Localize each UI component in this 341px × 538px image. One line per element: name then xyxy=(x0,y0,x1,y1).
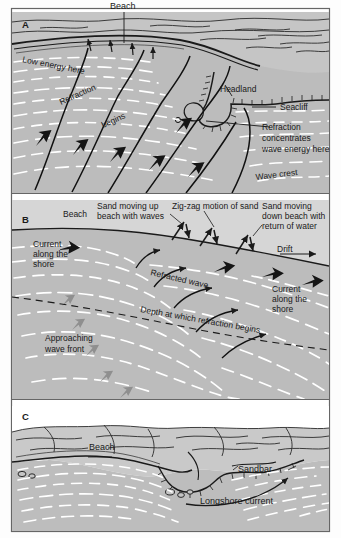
panel-b-label-current-right-1: Current xyxy=(272,284,301,294)
panel-b-label-current-left-2: along the xyxy=(33,249,68,259)
panel-b-label-zigzag: Zig-zag motion of sand xyxy=(172,201,259,211)
coastal-processes-diagram: A Beach Low energy here Refraction begin… xyxy=(0,0,341,538)
panel-b-label-beach: Beach xyxy=(63,209,87,219)
panel-b-label-drift: Drift xyxy=(277,244,293,254)
panel-b-label-sand-down-1: Sand moving xyxy=(262,201,312,211)
panel-b-label-current-left-3: shore xyxy=(33,259,55,269)
panel-a-label-headland: Headland xyxy=(220,84,257,94)
panel-b-label-current-right-3: shore xyxy=(272,304,294,314)
panel-c-label-longshore-current: Longshore current xyxy=(200,496,274,506)
panel-a: A Beach Low energy here Refraction begin… xyxy=(12,1,330,194)
figure-root: A Beach Low energy here Refraction begin… xyxy=(0,0,341,538)
panel-a-id: A xyxy=(22,19,29,30)
panel-a-label-refraction-concentrates-2: concentrates xyxy=(262,133,311,143)
panel-b-label-current-left-1: Current xyxy=(33,239,62,249)
panel-c: C Beach Sandbar Longshore current xyxy=(12,406,329,531)
panel-b-label-sand-up-2: beach with waves xyxy=(97,211,164,221)
panel-b-id: B xyxy=(22,214,29,225)
panel-b: B Beach Sand moving up beach with waves … xyxy=(12,200,329,400)
panel-a-label-beach: Beach xyxy=(110,1,136,11)
panel-b-label-current-right-2: along the xyxy=(272,294,307,304)
panel-b-label-approaching-2: wave front xyxy=(44,344,85,354)
panel-c-label-sandbar: Sandbar xyxy=(238,464,272,474)
panel-a-label-refraction-concentrates-1: Refraction xyxy=(262,122,301,132)
panel-b-label-approaching-1: Approaching xyxy=(45,333,93,343)
panel-b-label-sand-down-2: down beach with xyxy=(262,211,326,221)
panel-c-label-beach: Beach xyxy=(89,442,115,452)
panel-c-id: C xyxy=(22,411,29,422)
panel-b-label-sand-down-3: return of water xyxy=(262,221,317,231)
panel-b-label-sand-up-1: Sand moving up xyxy=(97,201,159,211)
panel-a-label-seacliff: Seacliff xyxy=(280,102,308,112)
panel-a-label-refraction-concentrates-3: wave energy here xyxy=(261,144,330,154)
